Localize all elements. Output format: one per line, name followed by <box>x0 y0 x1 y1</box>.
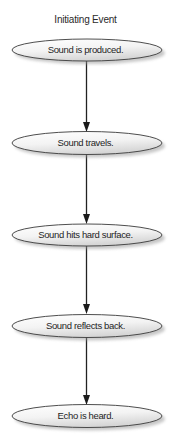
arrow-4 <box>83 336 90 405</box>
arrow-1 <box>83 61 90 132</box>
flowchart-graphics <box>0 0 171 442</box>
node-4-label: Sound reflects back. <box>0 320 171 332</box>
echo-flowchart: Initiating Event <box>0 0 171 442</box>
node-5-label: Echo is heard. <box>0 410 171 422</box>
arrow-2 <box>83 154 90 224</box>
node-3-label: Sound hits hard surface. <box>0 229 171 241</box>
arrow-3 <box>83 245 90 314</box>
node-2-label: Sound travels. <box>0 137 171 149</box>
node-1-label: Sound is produced. <box>0 44 171 56</box>
